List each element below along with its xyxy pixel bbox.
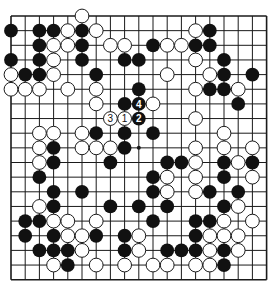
- white-stone: [89, 97, 103, 111]
- white-stone: [61, 38, 75, 52]
- white-stone: [61, 24, 75, 38]
- black-stone: [47, 141, 61, 155]
- white-stone: [75, 141, 89, 155]
- white-stone: [246, 141, 260, 155]
- white-stone: [132, 229, 146, 243]
- white-stone: [33, 126, 47, 140]
- black-stone: [146, 126, 160, 140]
- black-stone: [61, 244, 75, 258]
- white-stone: [33, 82, 47, 96]
- black-stone: [246, 68, 260, 82]
- black-stone: [75, 24, 89, 38]
- white-stone: [189, 53, 203, 67]
- black-stone: [47, 200, 61, 214]
- white-stone: [231, 229, 245, 243]
- white-stone: [89, 141, 103, 155]
- white-stone: 1: [118, 112, 132, 126]
- black-stone: [47, 244, 61, 258]
- move-number-label: 4: [136, 99, 142, 110]
- black-stone: [175, 156, 189, 170]
- hoshi-point: [137, 146, 141, 150]
- white-stone: [246, 214, 260, 228]
- black-stone: [33, 244, 47, 258]
- black-stone: [4, 53, 18, 67]
- white-stone: [75, 244, 89, 258]
- white-stone: [61, 229, 75, 243]
- white-stone: [160, 258, 174, 272]
- white-stone: [75, 229, 89, 243]
- white-stone: [89, 258, 103, 272]
- black-stone: [118, 53, 132, 67]
- white-stone: [4, 82, 18, 96]
- white-stone: 3: [104, 112, 118, 126]
- black-stone: [89, 68, 103, 82]
- white-stone: [189, 258, 203, 272]
- white-stone: [146, 97, 160, 111]
- white-stone: [33, 200, 47, 214]
- black-stone: [118, 126, 132, 140]
- black-stone: [89, 229, 103, 243]
- black-stone: [160, 244, 174, 258]
- white-stone: [104, 38, 118, 52]
- black-stone: [146, 214, 160, 228]
- black-stone: [33, 38, 47, 52]
- black-stone: [189, 38, 203, 52]
- black-stone: [118, 229, 132, 243]
- black-stone: [217, 244, 231, 258]
- white-stone: [189, 170, 203, 184]
- white-stone: [89, 24, 103, 38]
- white-stone: [231, 244, 245, 258]
- black-stone: [47, 185, 61, 199]
- white-stone: [47, 38, 61, 52]
- white-stone: [217, 214, 231, 228]
- black-stone: [18, 68, 32, 82]
- white-stone: [189, 141, 203, 155]
- white-stone: [231, 82, 245, 96]
- black-stone: [47, 156, 61, 170]
- black-stone: [217, 53, 231, 67]
- black-stone: [33, 24, 47, 38]
- black-stone: [203, 38, 217, 52]
- black-stone: [203, 82, 217, 96]
- white-stone: [160, 170, 174, 184]
- black-stone: [217, 170, 231, 184]
- black-stone: [146, 38, 160, 52]
- white-stone: [203, 229, 217, 243]
- black-stone: [47, 24, 61, 38]
- white-stone: [231, 156, 245, 170]
- black-stone: [203, 185, 217, 199]
- white-stone: [118, 258, 132, 272]
- white-stone: [118, 38, 132, 52]
- move-number-label: 3: [108, 113, 114, 124]
- white-stone: [33, 141, 47, 155]
- white-stone: [203, 258, 217, 272]
- black-stone: [203, 24, 217, 38]
- white-stone: [217, 229, 231, 243]
- black-stone: [146, 170, 160, 184]
- black-stone: [160, 200, 174, 214]
- white-stone: [146, 258, 160, 272]
- black-stone: [33, 170, 47, 184]
- move-number-label: 2: [136, 113, 142, 124]
- black-stone: [18, 229, 32, 243]
- white-stone: [189, 185, 203, 199]
- black-stone: [175, 244, 189, 258]
- white-stone: [217, 126, 231, 140]
- white-stone: [47, 214, 61, 228]
- white-stone: [47, 126, 61, 140]
- white-stone: [160, 38, 174, 52]
- black-stone: [104, 200, 118, 214]
- white-stone: [160, 68, 174, 82]
- black-stone: [231, 185, 245, 199]
- white-stone: [18, 82, 32, 96]
- white-stone: [189, 82, 203, 96]
- black-stone: [217, 156, 231, 170]
- white-stone: [189, 24, 203, 38]
- white-stone: [61, 214, 75, 228]
- black-stone: [132, 82, 146, 96]
- white-stone: [104, 141, 118, 155]
- black-stone: [203, 214, 217, 228]
- white-stone: [89, 82, 103, 96]
- white-stone: [75, 126, 89, 140]
- go-board-diagram: 4312: [0, 0, 275, 293]
